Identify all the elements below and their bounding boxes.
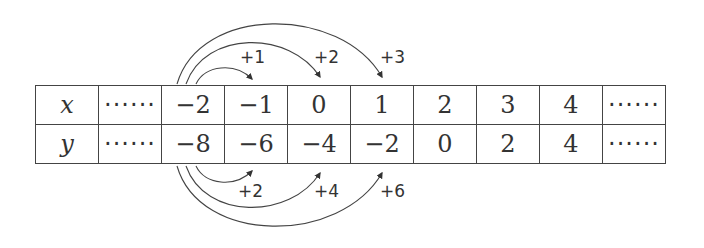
table-row-y: y ······ −8 −6 −4 −2 0 2 4 ······ (36, 125, 666, 164)
label-bottom-3: +6 (380, 181, 405, 201)
cell: ······ (99, 125, 162, 164)
label-bottom-1: +2 (238, 181, 263, 201)
cell: −4 (288, 125, 351, 164)
function-table-diagram: +1 +2 +3 +2 +4 +6 x ······ −2 −1 0 1 2 3… (0, 0, 704, 248)
cell: ······ (603, 86, 666, 125)
top-arc-plus3 (177, 24, 382, 84)
bottom-arc-plus6 (177, 166, 382, 226)
row-label-y: y (36, 125, 99, 164)
label-bottom-2: +4 (314, 181, 339, 201)
label-top-3: +3 (380, 47, 405, 67)
cell: −2 (351, 125, 414, 164)
cell: −1 (225, 86, 288, 125)
cell: 0 (288, 86, 351, 125)
cell: −6 (225, 125, 288, 164)
cell: −2 (162, 86, 225, 125)
cell: ······ (99, 86, 162, 125)
top-arc-plus1 (196, 68, 252, 84)
cell: 3 (477, 86, 540, 125)
xy-table: x ······ −2 −1 0 1 2 3 4 ······ y ······… (35, 85, 666, 164)
cell: 2 (477, 125, 540, 164)
table-row-x: x ······ −2 −1 0 1 2 3 4 ······ (36, 86, 666, 125)
cell: 0 (414, 125, 477, 164)
row-label-x: x (36, 86, 99, 125)
cell: 2 (414, 86, 477, 125)
cell: ······ (603, 125, 666, 164)
bottom-arc-plus2 (196, 166, 252, 182)
label-top-1: +1 (240, 47, 265, 67)
cell: 1 (351, 86, 414, 125)
cell: −8 (162, 125, 225, 164)
cell: 4 (540, 125, 603, 164)
cell: 4 (540, 86, 603, 125)
label-top-2: +2 (314, 47, 339, 67)
